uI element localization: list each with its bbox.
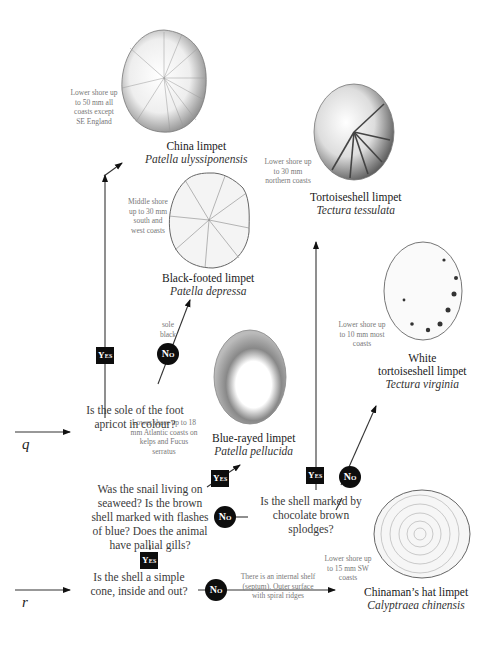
species-black-footed-limpet: Black-footed limpet Patella depressa	[162, 272, 254, 298]
common-name: Blue-rayed limpet	[212, 432, 295, 445]
common-name: Chinaman’s hat limpet	[364, 586, 468, 599]
branch-note-septum: There is an internal shelf (septum). Out…	[236, 572, 320, 601]
latin-name: Calyptraea chinensis	[364, 599, 468, 612]
no-marker-simple-cone: No	[205, 579, 227, 601]
question-simple-cone: Is the shell a simple cone, inside and o…	[84, 570, 194, 598]
no-marker-seaweed: No	[214, 506, 236, 528]
latin-name: Patella depressa	[162, 285, 254, 298]
no-marker-sole-apricot: No	[157, 343, 179, 365]
entry-point-r: r	[22, 594, 28, 611]
habitat-note-black-footed: Middle shore up to 30 mm south and west …	[128, 197, 168, 235]
species-china-limpet: China limpet Patella ulyssiponensis	[145, 140, 248, 166]
blue-rayed-limpet-illustration	[212, 328, 288, 426]
habitat-note-white-tortoiseshell: Lower shore up to 10 mm most coasts	[336, 320, 388, 349]
common-name-line2: tortoiseshell limpet	[378, 365, 466, 378]
latin-name: Tectura virginia	[378, 378, 466, 391]
question-chocolate: Is the shell marked by chocolate brown s…	[256, 494, 366, 536]
yes-marker-sole-apricot: Yes	[96, 347, 114, 364]
habitat-note-tortoiseshell: Lower shore up to 30 mm northern coasts	[262, 157, 314, 186]
latin-name: Tectura tessulata	[310, 204, 402, 217]
entry-point-q: q	[22, 436, 30, 453]
common-name: Tortoiseshell limpet	[310, 191, 402, 204]
no-marker-chocolate: No	[339, 466, 361, 488]
species-tortoiseshell-limpet: Tortoiseshell limpet Tectura tessulata	[310, 191, 402, 217]
question-seaweed: Was the snail living on seaweed? Is the …	[90, 482, 210, 552]
branch-note-sole-black: sole black	[156, 320, 180, 339]
china-limpet-illustration	[118, 28, 210, 134]
species-white-tortoiseshell-limpet: White tortoiseshell limpet Tectura virgi…	[378, 352, 466, 391]
common-name: Black-footed limpet	[162, 272, 254, 285]
yes-marker-simple-cone: Yes	[140, 552, 158, 569]
yes-marker-seaweed: Yes	[211, 470, 229, 487]
species-chinamans-hat-limpet: Chinaman’s hat limpet Calyptraea chinens…	[364, 586, 468, 612]
white-tortoiseshell-limpet-illustration	[382, 240, 464, 342]
latin-name: Patella ulyssiponensis	[145, 153, 248, 166]
question-sole-apricot: Is the sole of the foot apricot in colou…	[80, 403, 190, 431]
common-name: China limpet	[145, 140, 248, 153]
habitat-note-china: Lower shore up to 50 mm all coasts excep…	[70, 88, 118, 126]
common-name-line1: White	[378, 352, 466, 365]
black-footed-limpet-illustration	[165, 170, 253, 270]
species-blue-rayed-limpet: Blue-rayed limpet Patella pellucida	[212, 432, 295, 458]
chinamans-hat-limpet-illustration	[372, 488, 472, 580]
tortoiseshell-limpet-illustration	[312, 82, 396, 182]
yes-marker-chocolate: Yes	[306, 467, 324, 484]
latin-name: Patella pellucida	[212, 445, 295, 458]
habitat-note-chinamans-hat: Lower shore up to 15 mm SW coasts	[322, 554, 374, 583]
